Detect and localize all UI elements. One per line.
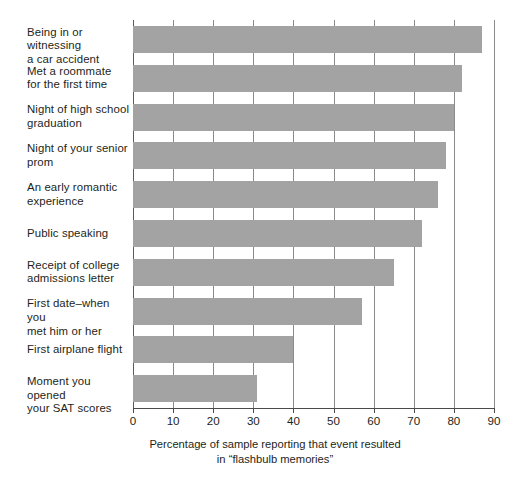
category-label-line: First date–when you <box>27 297 131 324</box>
category-label: An early romanticexperience <box>27 181 131 208</box>
flashbulb-memories-bar-chart: Being in or witnessinga car accidentMet … <box>0 0 524 485</box>
bar <box>133 142 446 169</box>
x-axis-caption: Percentage of sample reporting that even… <box>110 437 440 466</box>
category-label-line: graduation <box>27 117 131 131</box>
category-label: Moment you openedyour SAT scores <box>27 375 131 416</box>
category-label-line: experience <box>27 195 131 209</box>
category-label: Met a roommatefor the first time <box>27 65 131 92</box>
bar <box>133 259 394 286</box>
x-tick-label-90: 90 <box>479 414 509 427</box>
bar <box>133 65 462 92</box>
x-tick-label-20: 20 <box>198 414 228 427</box>
bar <box>133 26 482 53</box>
x-tick-mark-10 <box>173 408 174 413</box>
x-tick-label-0: 0 <box>118 414 148 427</box>
x-tick-mark-0 <box>133 408 134 413</box>
x-tick-mark-90 <box>494 408 495 413</box>
category-label-line: admissions letter <box>27 272 131 286</box>
category-label: First airplane flight <box>27 343 131 357</box>
bar <box>133 104 454 131</box>
x-tick-label-50: 50 <box>319 414 349 427</box>
x-tick-mark-40 <box>293 408 294 413</box>
category-label: Public speaking <box>27 227 131 241</box>
category-label-line: Met a roommate <box>27 65 131 79</box>
category-label-line: for the first time <box>27 78 131 92</box>
x-axis-caption-line-1: Percentage of sample reporting that even… <box>110 437 440 452</box>
category-label: Receipt of collegeadmissions letter <box>27 259 131 286</box>
x-axis-line <box>133 408 495 409</box>
x-tick-mark-20 <box>213 408 214 413</box>
category-label-line: Night of high school <box>27 103 131 117</box>
category-label: Night of high schoolgraduation <box>27 103 131 130</box>
plot-area <box>133 20 494 408</box>
category-label-line: Night of your senior <box>27 142 131 156</box>
x-tick-mark-30 <box>253 408 254 413</box>
x-tick-label-40: 40 <box>278 414 308 427</box>
x-tick-label-10: 10 <box>158 414 188 427</box>
category-label-line: An early romantic <box>27 181 131 195</box>
category-label: First date–when youmet him or her <box>27 297 131 338</box>
category-label-line: First airplane flight <box>27 343 131 357</box>
gridline-90 <box>494 20 495 408</box>
bar <box>133 298 362 325</box>
x-tick-mark-60 <box>374 408 375 413</box>
category-label-column: Being in or witnessinga car accidentMet … <box>0 20 127 408</box>
category-label-line: your SAT scores <box>27 402 131 416</box>
x-tick-label-80: 80 <box>439 414 469 427</box>
category-label-line: Receipt of college <box>27 259 131 273</box>
x-tick-mark-70 <box>414 408 415 413</box>
bar <box>133 181 438 208</box>
x-tick-label-30: 30 <box>238 414 268 427</box>
x-tick-mark-80 <box>454 408 455 413</box>
category-label-line: prom <box>27 156 131 170</box>
category-label: Night of your seniorprom <box>27 142 131 169</box>
x-tick-label-70: 70 <box>399 414 429 427</box>
bar <box>133 375 257 402</box>
category-label-line: Public speaking <box>27 227 131 241</box>
x-axis-caption-line-2: in “flashbulb memories” <box>110 452 440 467</box>
category-label-line: Being in or witnessing <box>27 26 131 53</box>
category-label-line: met him or her <box>27 325 131 339</box>
bar <box>133 220 422 247</box>
x-tick-label-60: 60 <box>359 414 389 427</box>
category-label-line: Moment you opened <box>27 375 131 402</box>
category-label: Being in or witnessinga car accident <box>27 26 131 67</box>
x-tick-mark-50 <box>334 408 335 413</box>
bar <box>133 336 293 363</box>
